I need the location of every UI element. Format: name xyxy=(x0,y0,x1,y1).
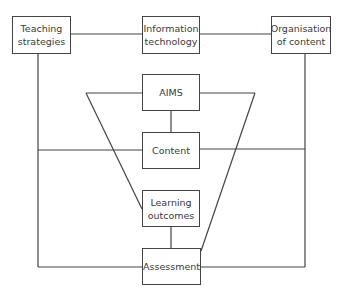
node-label: Teaching strategies xyxy=(13,22,70,48)
node-label: Learning outcomes xyxy=(143,196,199,222)
node-label: Content xyxy=(152,144,190,157)
node-label: Information technology xyxy=(143,22,199,48)
node-learning-outcomes: Learning outcomes xyxy=(142,190,200,227)
node-teaching-strategies: Teaching strategies xyxy=(12,16,71,54)
node-label: AIMS xyxy=(159,86,183,99)
node-aims: AIMS xyxy=(142,74,200,111)
node-organisation-of-content: Organisation of content xyxy=(271,16,331,54)
node-information-technology: Information technology xyxy=(142,16,200,54)
node-label: Assessment xyxy=(143,260,200,273)
node-assessment: Assessment xyxy=(142,248,201,285)
node-content: Content xyxy=(142,132,200,169)
funnel-left-diagonal xyxy=(86,93,142,209)
node-label: Organisation of content xyxy=(271,22,332,48)
funnel-right-diagonal xyxy=(201,93,255,251)
